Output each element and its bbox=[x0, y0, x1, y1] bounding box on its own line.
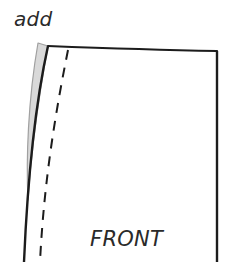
pattern-diagram: add FRONT bbox=[0, 0, 236, 274]
front-label: FRONT bbox=[90, 227, 163, 251]
waist-line bbox=[48, 46, 217, 51]
add-label: add bbox=[14, 7, 53, 31]
stitch-line bbox=[40, 50, 68, 262]
